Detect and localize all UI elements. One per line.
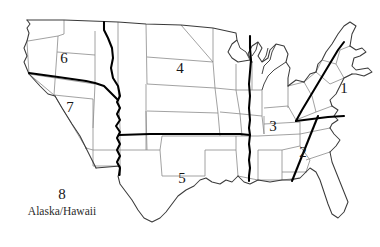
- divider-6-7: [29, 73, 118, 100]
- territory-dividers-layer: [29, 22, 344, 181]
- region-label-4: 4: [176, 61, 184, 76]
- region-label-8: 8: [58, 187, 66, 202]
- region-label-2: 2: [299, 145, 307, 160]
- region-label-7: 7: [66, 100, 74, 115]
- divider-4-5: [119, 134, 250, 135]
- divider-4-3: [249, 36, 251, 135]
- us-territory-map: 1 2 3 4 5 6 7 8 Alaska/Hawaii: [0, 0, 380, 247]
- region-label-5: 5: [178, 171, 186, 186]
- region-label-3: 3: [269, 119, 277, 134]
- region-label-1: 1: [340, 81, 348, 96]
- divider-3-5: [249, 135, 250, 181]
- national-outline-layer: [24, 20, 372, 222]
- region-label-6: 6: [60, 51, 68, 66]
- region-8-caption: Alaska/Hawaii: [28, 206, 96, 218]
